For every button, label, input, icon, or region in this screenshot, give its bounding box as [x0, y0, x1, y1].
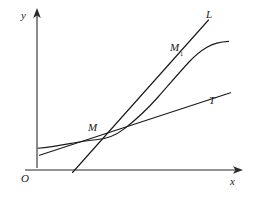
tangent-line-label: T — [209, 95, 215, 106]
secant-line — [73, 20, 209, 173]
y-axis-label: y — [21, 10, 26, 21]
function-curve — [38, 41, 229, 148]
point-m1-letter: M — [170, 41, 179, 53]
origin-label: O — [21, 173, 29, 184]
diagram-canvas — [0, 0, 260, 213]
figure-container: y x O L M1 M T — [0, 0, 260, 213]
x-axis-label: x — [230, 176, 235, 187]
point-m1-subscript: 1 — [180, 50, 184, 58]
point-m1-label: M1 — [170, 42, 183, 56]
point-m-label: M — [88, 122, 97, 133]
secant-line-label: L — [206, 9, 212, 20]
